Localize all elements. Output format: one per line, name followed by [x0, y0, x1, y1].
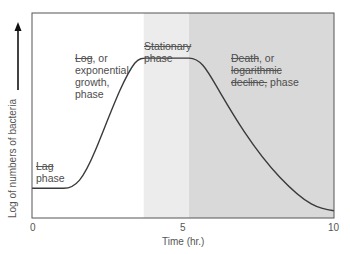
y-axis-label: Log of numbers of bacteria: [7, 99, 18, 218]
x-tick-5: 5: [180, 222, 186, 233]
y-axis-arrow: [15, 22, 22, 90]
growth-curve-chart: [0, 0, 350, 254]
annotation-lag-phase: Lagphase: [36, 160, 65, 184]
x-axis-label: Time (hr.): [162, 236, 204, 247]
annotation-stationary-phase: Stationaryphase: [144, 40, 191, 64]
region-death: [189, 13, 334, 218]
annotation-log-phase: Log, or exponentialgrowth,phase: [75, 52, 129, 100]
x-tick-0: 0: [30, 222, 36, 233]
annotation-death-phase: Death, or logarithmic decline, phase: [231, 52, 299, 88]
x-tick-10: 10: [328, 222, 339, 233]
